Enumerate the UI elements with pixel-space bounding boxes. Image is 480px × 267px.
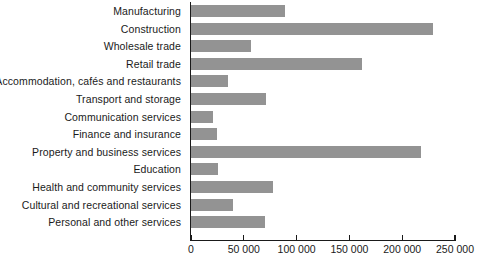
category-label: Property and business services <box>32 146 181 158</box>
category-label: Accommodation, cafés and restaurants <box>0 75 181 87</box>
category-label: Education <box>133 163 181 175</box>
bar-chart: ManufacturingConstructionWholesale trade… <box>0 0 480 267</box>
x-axis-tick <box>349 235 350 241</box>
bar <box>191 5 285 17</box>
bar <box>191 199 233 211</box>
x-axis-tick-label: 0 <box>188 243 194 255</box>
x-axis-tick <box>454 235 455 241</box>
category-label: Wholesale trade <box>104 40 181 52</box>
category-label: Transport and storage <box>76 93 181 105</box>
bar <box>191 23 433 35</box>
bar <box>191 163 218 175</box>
x-axis-tick-label: 200 000 <box>383 243 421 255</box>
category-label: Cultural and recreational services <box>22 199 181 211</box>
category-label: Manufacturing <box>113 5 181 17</box>
category-axis-labels: ManufacturingConstructionWholesale trade… <box>0 0 186 238</box>
category-label: Health and community services <box>32 181 181 193</box>
category-label: Personal and other services <box>48 216 181 228</box>
bar <box>191 146 421 158</box>
bar <box>191 75 228 87</box>
x-axis-tick-label: 250 000 <box>436 243 474 255</box>
x-axis-tick <box>190 235 191 241</box>
bar <box>191 111 213 123</box>
x-axis-tick <box>402 235 403 241</box>
x-axis-tick-label: 150 000 <box>330 243 368 255</box>
x-axis-tick <box>296 235 297 241</box>
plot-area <box>191 0 480 238</box>
category-label: Communication services <box>64 111 181 123</box>
bar <box>191 93 266 105</box>
bar <box>191 128 217 140</box>
x-axis-tick-label: 50 000 <box>228 243 260 255</box>
x-axis-line <box>190 240 455 241</box>
x-axis-tick <box>243 235 244 241</box>
bar <box>191 216 265 228</box>
bar <box>191 181 273 193</box>
category-label: Finance and insurance <box>73 128 181 140</box>
x-axis-tick-label: 100 000 <box>278 243 316 255</box>
bar <box>191 40 251 52</box>
bar <box>191 58 362 70</box>
y-axis-line <box>190 2 191 241</box>
category-label: Construction <box>121 23 181 35</box>
category-label: Retail trade <box>126 58 181 70</box>
